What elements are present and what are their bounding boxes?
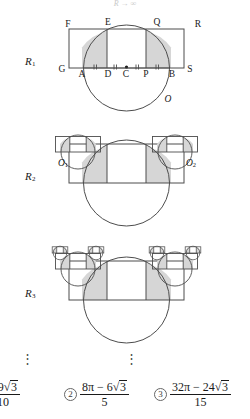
- point-label-p: P: [143, 70, 148, 80]
- point-label-a: A: [79, 70, 86, 80]
- stage-r2-drawing: [56, 135, 198, 226]
- stage-label-r1-text: R: [25, 55, 32, 67]
- point-label-f: F: [65, 20, 70, 30]
- answer-choice-1-numerator: − 9√3: [0, 380, 20, 395]
- point-label-b: B: [169, 70, 175, 80]
- stage-label-r1-sub: 1: [32, 60, 36, 68]
- answer-choice-1-denominator: 10: [0, 395, 9, 408]
- point-label-o2-sub: 2: [193, 161, 196, 168]
- stage-label-r2-sub: 2: [32, 175, 36, 183]
- answer-choice-3-numerator-text: 32π − 24: [172, 380, 215, 394]
- stage-label-r3: R3: [25, 288, 36, 300]
- stage-label-r2-text: R: [25, 170, 32, 182]
- answer-choices: − 9√3 10 2 8π − 6√3 5 3 32π − 24√3 15: [0, 376, 250, 419]
- vertical-ellipsis-left: ⋮: [21, 352, 34, 365]
- point-label-c: C: [123, 70, 129, 80]
- answer-choice-1-fraction: − 9√3 10: [0, 380, 20, 409]
- point-label-o1: O1: [58, 159, 68, 169]
- answer-choice-2-fraction: 8π − 6√3 5: [80, 380, 129, 409]
- answer-choice-2-numerator-text: 8π − 6: [82, 380, 113, 394]
- figure-page: R → ∞: [0, 0, 250, 419]
- answer-choice-3-numerator: 32π − 24√3: [170, 380, 231, 395]
- answer-choice-2[interactable]: 2 8π − 6√3 5: [64, 380, 129, 409]
- point-label-o2: O2: [186, 159, 196, 169]
- answer-choice-1[interactable]: − 9√3 10: [0, 380, 20, 409]
- stage-label-r3-text: R: [25, 287, 32, 299]
- stage-label-r1: R1: [25, 56, 36, 68]
- point-label-r: R: [195, 20, 201, 30]
- point-label-o2-text: O: [186, 158, 193, 168]
- answer-choice-2-number: 2: [64, 388, 77, 401]
- answer-choice-3-denominator: 15: [194, 395, 206, 408]
- vertical-ellipsis-right: ⋮: [125, 352, 138, 365]
- answer-choice-3-fraction: 32π − 24√3 15: [170, 380, 231, 409]
- point-label-o1-text: O: [58, 158, 65, 168]
- stage-label-r2: R2: [25, 171, 36, 183]
- point-label-e: E: [105, 18, 111, 28]
- stage-label-r3-sub: 3: [32, 292, 36, 300]
- stage-r3-drawing: [52, 246, 201, 343]
- answer-choice-2-radicand: 3: [119, 380, 127, 394]
- answer-choice-3[interactable]: 3 32π − 24√3 15: [154, 380, 231, 409]
- point-label-o: O: [165, 95, 172, 105]
- answer-choice-2-numerator: 8π − 6√3: [80, 380, 129, 395]
- point-label-o1-sub: 1: [65, 161, 68, 168]
- answer-choice-3-number: 3: [154, 388, 167, 401]
- point-label-d: D: [105, 70, 112, 80]
- point-label-s: S: [187, 65, 192, 75]
- answer-choice-3-radicand: 3: [221, 380, 229, 394]
- point-label-q: Q: [154, 18, 161, 28]
- answer-choice-2-denominator: 5: [101, 395, 107, 408]
- answer-choice-1-radicand: 3: [10, 380, 18, 394]
- point-label-g: G: [59, 65, 66, 75]
